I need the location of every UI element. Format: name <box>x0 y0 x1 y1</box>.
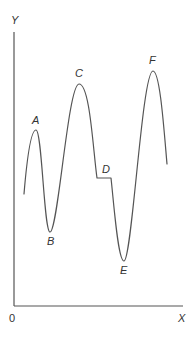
point-label-c: C <box>75 67 83 79</box>
x-axis-label: X <box>177 312 186 324</box>
y-axis-label: Y <box>11 14 19 26</box>
wave-curve <box>24 71 167 261</box>
point-label-f: F <box>149 54 157 66</box>
origin-label: 0 <box>9 312 15 324</box>
point-label-b: B <box>47 235 54 247</box>
point-label-a: A <box>31 114 39 126</box>
point-label-e: E <box>120 264 128 276</box>
diagram-canvas: Y X 0 A B C D E F <box>0 0 196 339</box>
wave-diagram: Y X 0 A B C D E F <box>0 0 196 339</box>
point-label-d: D <box>102 163 110 175</box>
